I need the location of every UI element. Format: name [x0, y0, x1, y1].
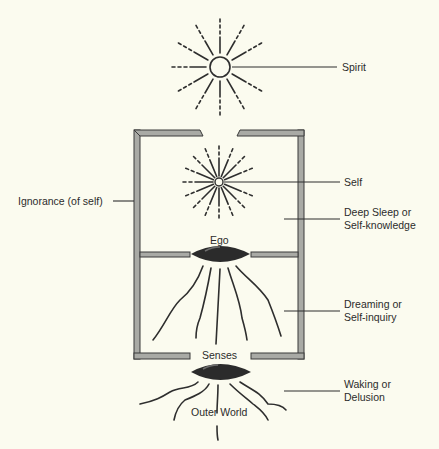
ray-dashed: [178, 43, 191, 51]
ray-dashed: [229, 207, 233, 217]
senses-label: Senses: [202, 349, 237, 361]
ray: [227, 79, 235, 93]
dream-nerves: [153, 266, 281, 344]
ignorance-label: Ignorance (of self): [18, 195, 103, 207]
ray-dashed: [229, 147, 233, 157]
ray-dashed: [244, 167, 254, 171]
nerve: [140, 382, 198, 404]
ray-dashed: [196, 96, 204, 109]
ray-dashed: [178, 84, 191, 92]
ray-dashed: [238, 155, 246, 163]
nerve: [216, 269, 220, 344]
ray: [227, 41, 235, 55]
ray-dashed: [249, 43, 262, 51]
deep-sleep-label-line1: Deep Sleep or: [344, 206, 412, 218]
senses-lens-icon: [191, 364, 251, 380]
ray: [194, 52, 208, 60]
self-label: Self: [344, 176, 362, 188]
ray-dashed: [184, 192, 194, 196]
ray: [205, 41, 213, 55]
ray-dashed: [204, 207, 208, 217]
outer-world-label: Outer World: [191, 406, 248, 418]
ray: [232, 52, 246, 60]
spirit-label: Spirit: [342, 61, 366, 73]
nerve: [217, 426, 218, 440]
ego-label: Ego: [210, 234, 229, 246]
ray: [232, 74, 246, 82]
nerve: [236, 266, 281, 336]
dreaming-label-line1: Dreaming or: [344, 298, 402, 310]
ray: [205, 79, 213, 93]
nerve: [228, 268, 247, 340]
nerve: [153, 266, 203, 340]
waking-label-line1: Waking or: [344, 378, 391, 390]
ego-lens-icon: [191, 246, 250, 262]
ray: [194, 74, 208, 82]
ray-dashed: [238, 201, 246, 209]
consciousness-diagram: Spirit Self Ignorance (of self) Deep Sle…: [0, 0, 439, 449]
dreaming-label-line2: Self-inquiry: [344, 311, 397, 323]
ray-dashed: [184, 167, 194, 171]
ray-dashed: [244, 192, 254, 196]
ray-dashed: [237, 96, 245, 109]
ray-dashed: [192, 201, 200, 209]
ray-dashed: [237, 25, 245, 38]
waking-label-line2: Delusion: [344, 391, 385, 403]
ray-dashed: [204, 147, 208, 157]
ray-dashed: [196, 25, 204, 38]
ray-dashed: [192, 155, 200, 163]
deep-sleep-label-line2: Self-knowledge: [344, 219, 416, 231]
ray-dashed: [249, 84, 262, 92]
